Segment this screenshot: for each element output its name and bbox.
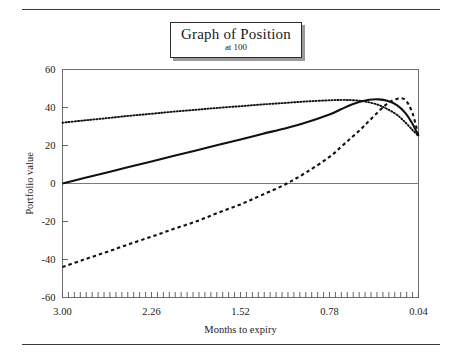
x-tick-label: 3.00 [53, 306, 71, 317]
y-tick-label: -20 [42, 216, 56, 227]
x-tick-label: 0.04 [409, 306, 428, 317]
series-dotted-curve [63, 100, 419, 136]
figure-container: Graph of Position at 100 6040200-20-40-6… [0, 0, 462, 354]
x-tick-label: 0.78 [320, 306, 338, 317]
x-axis-title: Months to expiry [204, 324, 277, 335]
y-tick-label: -40 [42, 254, 56, 265]
axis-labels-layer: 6040200-20-40-603.002.261.520.780.04Mont… [24, 64, 428, 334]
y-tick-label: 20 [45, 140, 56, 151]
y-tick-label: 40 [45, 102, 56, 113]
y-tick-label: 60 [45, 64, 56, 75]
y-tick-label: -60 [42, 292, 56, 303]
plot-area: 6040200-20-40-603.002.261.520.780.04Mont… [0, 0, 462, 354]
data-series-layer [63, 98, 419, 267]
y-tick-label: 0 [50, 178, 55, 189]
x-tick-label: 1.52 [231, 306, 249, 317]
series-dashed-curve [63, 98, 419, 267]
y-axis-title: Portfolio value [24, 152, 35, 215]
series-solid-curve [63, 99, 419, 183]
x-tick-label: 2.26 [142, 306, 160, 317]
